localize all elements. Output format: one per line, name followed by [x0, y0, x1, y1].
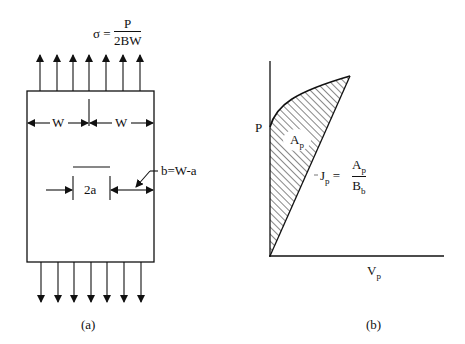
area-label: Ap: [290, 133, 304, 150]
crack: [46, 167, 158, 200]
caption-a: (a): [81, 318, 95, 331]
crack-length-label: 2a: [84, 183, 96, 196]
j-fraction: Ap Bb: [352, 158, 366, 195]
area-label-main: A: [290, 132, 299, 147]
area-label-sub: p: [299, 140, 304, 150]
stress-lhs: σ =: [93, 27, 111, 40]
caption-b: (b): [366, 318, 381, 331]
width-label-left: W: [52, 116, 64, 129]
specimen-diagram: [27, 55, 158, 302]
j-sub: p: [325, 176, 330, 186]
figure-canvas: [0, 0, 465, 344]
ligament-label: b=W-a: [161, 164, 196, 177]
tension-arrows-top: [40, 55, 140, 91]
fraction-bar: [114, 31, 141, 32]
j-formula-lhs: Jp =: [320, 169, 340, 186]
width-label-right: W: [115, 116, 127, 129]
fraction-bar: [352, 176, 366, 177]
x-axis-label: Vp: [367, 264, 381, 281]
j-equals: =: [333, 168, 340, 183]
stress-fraction: P 2BW: [114, 17, 141, 47]
x-label-main: V: [367, 263, 376, 278]
specimen-plate: [27, 91, 154, 262]
stress-denominator: 2BW: [114, 34, 141, 47]
y-axis-label: P: [255, 121, 262, 134]
stress-numerator: P: [124, 17, 131, 30]
tension-arrows-bottom: [41, 262, 141, 302]
j-numerator: Ap: [352, 158, 366, 175]
x-label-sub: p: [376, 271, 381, 281]
j-denominator: Bb: [352, 179, 365, 196]
